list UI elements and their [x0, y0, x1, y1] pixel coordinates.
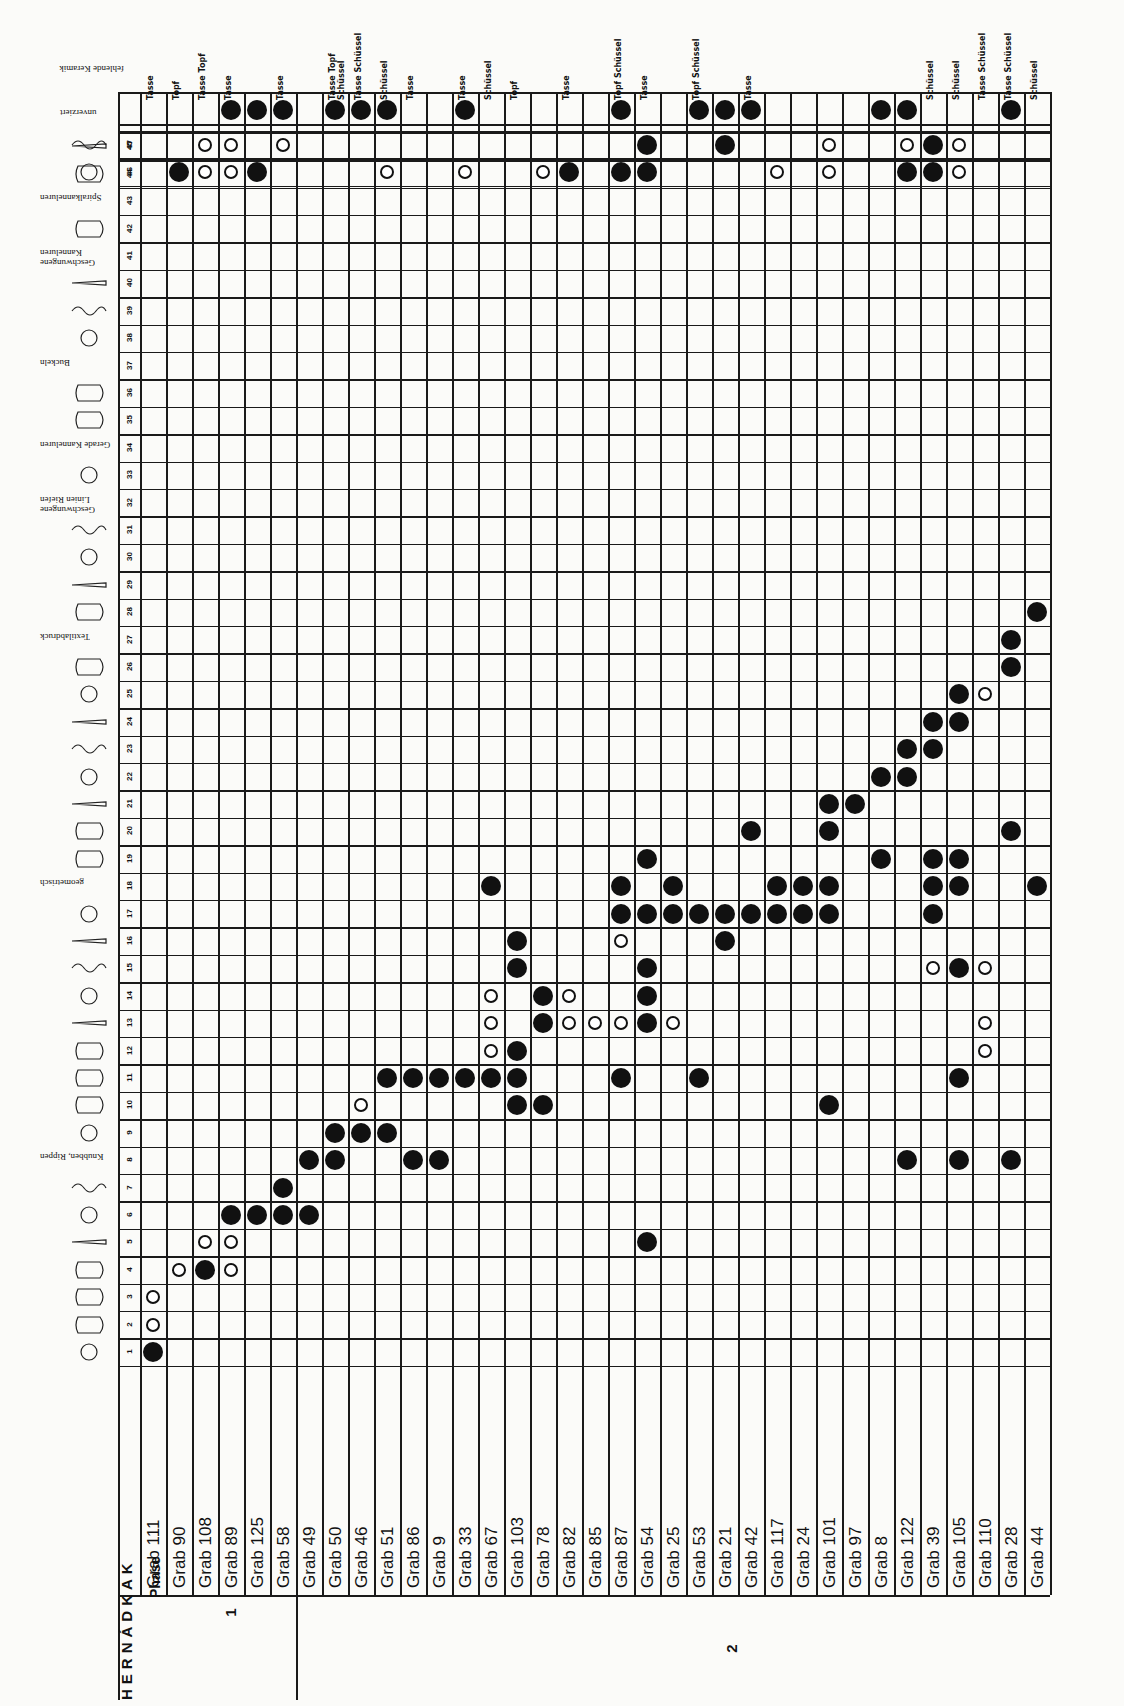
type-number: 5 [125, 1232, 134, 1252]
grid-row-line [118, 407, 1050, 409]
grid-column-line [712, 92, 714, 186]
grid-row-line [118, 708, 1050, 710]
filled-marker [819, 821, 839, 841]
filled-marker [533, 1013, 553, 1033]
spiral-icon [70, 519, 108, 541]
grid-column-line [816, 92, 818, 186]
grid-row-line [118, 955, 1050, 957]
grid-column-line [686, 92, 688, 186]
open-marker [770, 165, 784, 179]
grid-column-line [946, 133, 948, 1366]
type-number: 36 [125, 383, 134, 403]
filled-marker [299, 1150, 319, 1170]
label-column-line [166, 1366, 168, 1595]
filled-marker [403, 1068, 423, 1088]
open-marker [588, 1016, 602, 1030]
grid-row-line [118, 927, 1050, 929]
keramik-label: Tasse [640, 30, 649, 100]
type-number: 30 [125, 547, 134, 567]
filled-marker [689, 1068, 709, 1088]
filled-marker [429, 1150, 449, 1170]
type-number: 23 [125, 739, 134, 759]
label-column-line [348, 1366, 350, 1595]
keramik-label: Schüssel [952, 30, 961, 100]
type-number: 40 [125, 273, 134, 293]
type-annotation: geometrisch [40, 878, 116, 888]
filled-marker [637, 904, 657, 924]
type-number: 47 [125, 135, 134, 155]
grave-label: Grab 125 [248, 1517, 268, 1588]
grid-column-line [868, 133, 870, 1366]
type-number: 35 [125, 410, 134, 430]
spiral-icon [70, 1177, 108, 1199]
type-number: 28 [125, 602, 134, 622]
pin-icon [70, 272, 108, 294]
open-marker [562, 1016, 576, 1030]
filled-marker [637, 162, 657, 182]
open-marker [172, 1263, 186, 1277]
label-column-line [634, 1366, 636, 1595]
dagger-icon [70, 793, 108, 815]
keramik-label: Tasse Topf [198, 30, 207, 100]
filled-marker [949, 1068, 969, 1088]
filled-marker [923, 739, 943, 759]
open-marker [198, 1235, 212, 1249]
type-number: 33 [125, 465, 134, 485]
grave-label: Grab 67 [482, 1527, 502, 1588]
filled-marker [377, 100, 397, 120]
grid-row-line [118, 763, 1050, 765]
filled-marker [819, 876, 839, 896]
label-column-line [374, 1366, 376, 1595]
keramik-label: Tasse [562, 30, 571, 100]
grid-row-line [118, 1311, 1050, 1313]
filled-marker [845, 794, 865, 814]
keramik-label: Tasse [744, 30, 753, 100]
grid-column-line [946, 92, 948, 186]
label-column-line [764, 1366, 766, 1595]
spiral-icon [70, 300, 108, 322]
filled-marker [637, 135, 657, 155]
filled-marker [351, 1123, 371, 1143]
type-number: 18 [125, 876, 134, 896]
label-column-line [608, 1366, 610, 1595]
grid-row-line [118, 1147, 1050, 1149]
type-number: 7 [125, 1177, 134, 1197]
pot-icon [70, 1314, 108, 1336]
grave-label: Grab 44 [1028, 1527, 1048, 1588]
filled-marker [715, 931, 735, 951]
grid-column-line [842, 133, 844, 1366]
pot-icon [70, 656, 108, 678]
grid-column-line [868, 92, 870, 186]
phase-1-label: 1 [222, 1608, 239, 1616]
grid-column-line [504, 92, 506, 186]
grid-row-line [118, 599, 1050, 601]
grid-row-line [118, 379, 1050, 381]
grid-column-line [218, 92, 220, 186]
keramik-label: Schüssel [380, 30, 389, 100]
grid-column-line [1050, 92, 1052, 186]
label-column-line [738, 1366, 740, 1595]
grid-column-line [582, 133, 584, 1366]
filled-marker [273, 1205, 293, 1225]
grid-row-line [118, 653, 1050, 655]
label-column-line [816, 1366, 818, 1595]
type-number: 14 [125, 985, 134, 1005]
label-column-line [790, 1366, 792, 1595]
bowl-icon [70, 1259, 108, 1281]
grave-label: Grab 53 [690, 1527, 710, 1588]
filled-marker [455, 100, 475, 120]
grave-label: Grab 87 [612, 1527, 632, 1588]
filled-marker [221, 1205, 241, 1225]
grave-label: Grab 54 [638, 1527, 658, 1588]
grave-label: Grab 103 [508, 1517, 528, 1588]
type-annotation: Geschwungene Kanneluren [40, 248, 116, 268]
type-number: 3 [125, 1287, 134, 1307]
filled-marker [923, 135, 943, 155]
site-title: HERNÁDKAK [118, 1558, 135, 1700]
keramik-label: Tasse [146, 30, 155, 100]
phase-2-label: 2 [723, 1644, 740, 1652]
pot-icon [70, 1094, 108, 1116]
ring-icon [70, 683, 108, 705]
grave-label: Grab 82 [560, 1527, 580, 1588]
type-number: 6 [125, 1205, 134, 1225]
